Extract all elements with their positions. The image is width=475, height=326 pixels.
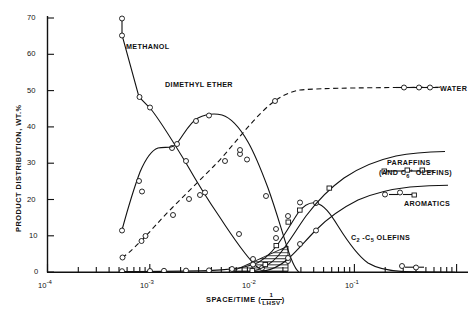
y-tick-50: 50 [27, 86, 35, 95]
x-axis-title-main: SPACE/TIME [206, 295, 256, 304]
x-tick-1e-1: 10-1 [345, 279, 359, 290]
aromatics-markers [286, 190, 403, 261]
curve-dimethyl-ether [122, 114, 299, 272]
y-ticks [48, 18, 55, 272]
x-tick-1e-1-exp: -1 [353, 279, 358, 285]
curve-label-methanol: METHANOL [126, 42, 170, 51]
x-tick-1e-2-exp: -2 [250, 279, 255, 285]
x-tick-1e-3-exp: -3 [148, 279, 153, 285]
x-tick-1e-4-exp: -4 [46, 279, 51, 285]
x-tick-1e-4: 10-4 [38, 279, 52, 290]
curve-label-c2-c5-olefins: C2 -C5 OLEFINS [351, 233, 410, 243]
paraffins-pre: (AND C [379, 168, 406, 177]
y-tick-20: 20 [27, 195, 35, 204]
y-tick-60: 60 [27, 49, 35, 58]
lhsv-denominator: LHSV [261, 300, 282, 307]
x-tick-1e-3: 10-3 [140, 279, 154, 290]
y-tick-70: 70 [27, 13, 35, 22]
aromatics-legend-markers [412, 193, 416, 197]
x-tick-1e-2: 10-2 [242, 279, 256, 290]
dme-markers [120, 113, 291, 264]
olefins-tail: OLEFINS [374, 233, 410, 242]
chart-figure: 70 60 50 40 30 20 10 0 PRODUCT DISTRIBUT… [0, 0, 475, 326]
curve-label-aromatics: AROMATICS [404, 199, 450, 208]
paraffins-subscript: 6 [406, 173, 409, 179]
paraffins-post: OLEFINS) [413, 168, 452, 177]
y-tick-40: 40 [27, 122, 35, 131]
methanol-markers [120, 16, 265, 271]
x-axis-title: SPACE/TIME (1LHSV) [206, 293, 285, 307]
y-axis-title: PRODUCT DISTRIBUTION, WT.% [14, 104, 23, 232]
curve-label-paraffins: PARAFFINS [387, 158, 431, 167]
curve-label-water: WATER [440, 84, 467, 93]
lhsv-fraction: 1LHSV [261, 292, 282, 306]
curve-label-dimethyl-ether: DIMETHYL ETHER [165, 80, 233, 89]
curve-label-paraffins-sub: (AND C6+ OLEFINS) [379, 167, 452, 179]
x-axis-title-paren-close: ) [282, 295, 285, 304]
olefins-dash: -C [360, 233, 371, 242]
y-tick-10: 10 [29, 231, 37, 240]
y-tick-0: 0 [34, 267, 38, 276]
y-tick-30: 30 [27, 158, 35, 167]
